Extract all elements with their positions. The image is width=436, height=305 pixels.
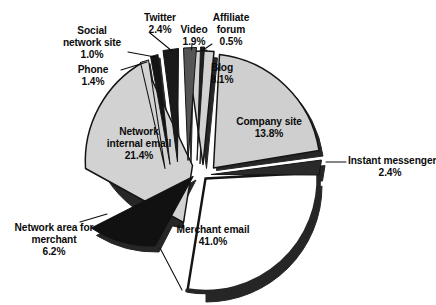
slice-label-phone-name: Phone bbox=[66, 64, 120, 76]
slice-label-blog-percent: 8.1% bbox=[198, 74, 246, 86]
slice-label-affiliate-forum: Affiliate forum 0.5% bbox=[202, 12, 260, 49]
slice-label-affiliate-forum-percent: 0.5% bbox=[202, 36, 260, 48]
slice-label-social-network-site-line1: Social bbox=[56, 25, 128, 37]
slice-label-company-site-percent: 13.8% bbox=[230, 128, 308, 140]
slice-label-company-site-name: Company site bbox=[230, 116, 308, 128]
slice-label-instant-messenger-percent: 2.4% bbox=[348, 167, 432, 179]
slice-label-phone-percent: 1.4% bbox=[66, 76, 120, 88]
slice-label-blog-name: Blog bbox=[198, 62, 246, 74]
slice-label-affiliate-forum-line1: Affiliate bbox=[202, 12, 260, 24]
slice-label-twitter-name: Twitter bbox=[134, 12, 186, 24]
slice-label-blog: Blog 8.1% bbox=[198, 62, 246, 86]
slice-label-network-internal-email-line1: Network bbox=[95, 126, 183, 138]
slice-label-social-network-site-line2: network site bbox=[56, 37, 128, 49]
slice-label-instant-messenger-name: Instant messenger bbox=[348, 155, 432, 167]
slice-label-network-internal-email-line2: internal email bbox=[95, 138, 183, 150]
slice-label-network-internal-email: Network internal email 21.4% bbox=[95, 126, 183, 163]
leader-line-social-network-site bbox=[128, 52, 155, 57]
slice-label-merchant-email-name: Merchant email bbox=[168, 224, 258, 236]
slice-label-network-area-for-merchant-percent: 6.2% bbox=[6, 246, 102, 258]
slice-label-social-network-site-percent: 1.0% bbox=[56, 49, 128, 61]
slice-label-network-area-for-merchant-line2: merchant bbox=[6, 234, 102, 246]
slice-label-social-network-site: Social network site 1.0% bbox=[56, 25, 128, 62]
slice-label-network-area-for-merchant-line1: Network area for bbox=[6, 222, 102, 234]
slice-label-instant-messenger: Instant messenger 2.4% bbox=[348, 155, 432, 179]
slice-label-network-internal-email-percent: 21.4% bbox=[95, 150, 183, 162]
slice-label-phone: Phone 1.4% bbox=[66, 64, 120, 88]
slice-label-merchant-email-percent: 41.0% bbox=[168, 236, 258, 248]
slice-label-affiliate-forum-line2: forum bbox=[202, 24, 260, 36]
slice-label-network-area-for-merchant: Network area for merchant 6.2% bbox=[6, 222, 102, 259]
slice-label-company-site: Company site 13.8% bbox=[230, 116, 308, 140]
leader-line-network-area-for-merchant bbox=[80, 214, 107, 222]
leader-line-merchant-email bbox=[160, 248, 182, 290]
slice-label-merchant-email: Merchant email 41.0% bbox=[168, 224, 258, 248]
